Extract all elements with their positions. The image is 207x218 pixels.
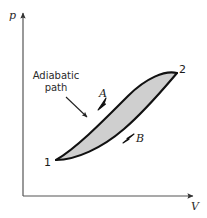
process-path-label-b: B bbox=[136, 133, 144, 144]
state-point-label-2: 2 bbox=[179, 64, 186, 75]
adiabatic-path-annotation-line-1: Adiabatic bbox=[29, 70, 83, 81]
state-point-label-1: 1 bbox=[44, 157, 51, 168]
y-axis-label: p bbox=[9, 10, 16, 21]
annotation-leader-line bbox=[66, 97, 87, 117]
x-axis-label: V bbox=[191, 201, 199, 212]
process-path-label-a: A bbox=[99, 88, 107, 99]
pv-diagram-canvas bbox=[0, 0, 207, 218]
pv-diagram-figure: p V Adiabatic path 1 2 A B bbox=[0, 0, 207, 218]
adiabatic-path-annotation-line-2: path bbox=[29, 82, 83, 93]
direction-arrow-b bbox=[123, 134, 134, 143]
